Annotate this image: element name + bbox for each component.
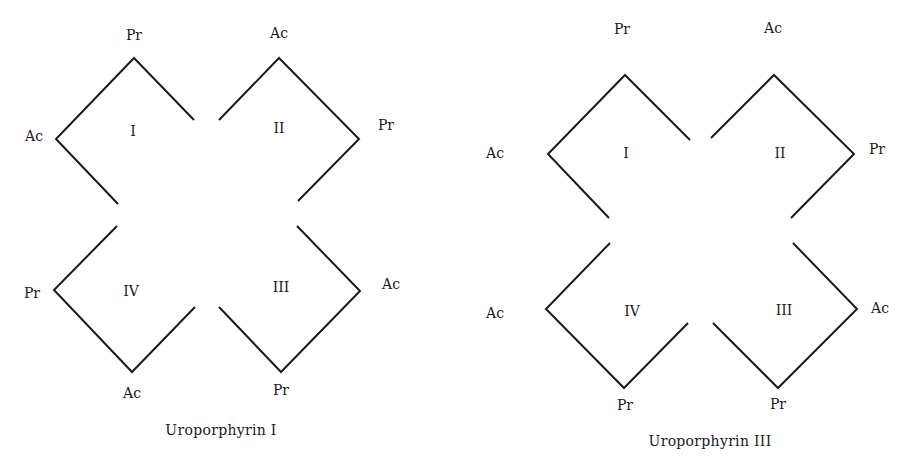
ring-I-right-diagram xyxy=(548,75,690,218)
substituent-label: Ac xyxy=(486,145,504,161)
substituent-label: Ac xyxy=(382,276,400,292)
ring-IV-right-diagram xyxy=(546,243,688,388)
substituent-label: Ac xyxy=(871,300,889,316)
ring-numeral: I xyxy=(130,123,136,139)
ring-II-left-diagram xyxy=(219,58,359,201)
diagram-title: Uroporphyrin III xyxy=(649,433,772,449)
substituent-label: Ac xyxy=(270,25,288,41)
ring-numeral: IV xyxy=(123,283,139,299)
substituent-label: Ac xyxy=(123,385,141,401)
substituent-label: Ac xyxy=(764,20,782,36)
substituent-label: Pr xyxy=(617,397,633,413)
substituent-label: Pr xyxy=(126,27,142,43)
substituent-label: Pr xyxy=(273,382,289,398)
ring-numeral: III xyxy=(776,302,793,318)
ring-numeral: I xyxy=(623,145,629,161)
ring-numeral: II xyxy=(774,145,785,161)
ring-numeral: III xyxy=(273,279,290,295)
ring-IV-left-diagram xyxy=(54,226,195,372)
ring-numeral: II xyxy=(273,120,284,136)
substituent-label: Ac xyxy=(486,305,504,321)
diagram-title: Uroporphyrin I xyxy=(165,422,276,438)
substituent-label: Pr xyxy=(770,396,786,412)
substituent-label: Ac xyxy=(25,128,43,144)
ring-I-left-diagram xyxy=(56,58,194,204)
substituent-label: Pr xyxy=(24,285,40,301)
substituent-label: Pr xyxy=(869,141,885,157)
substituent-label: Pr xyxy=(614,21,630,37)
ring-III-left-diagram xyxy=(219,226,360,372)
substituent-label: Pr xyxy=(378,117,394,133)
ring-numeral: IV xyxy=(624,303,640,319)
